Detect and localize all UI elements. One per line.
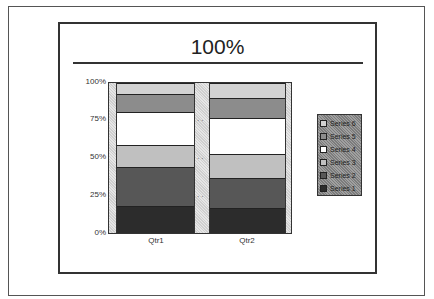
x-label-qtr2: Qtr2 <box>227 236 267 245</box>
title-underline <box>73 62 363 64</box>
legend-label: Series 6 <box>330 120 356 127</box>
legend-label: Series 1 <box>330 185 356 192</box>
legend-swatch <box>320 185 327 192</box>
chart-legend: Series 6 Series 5 Series 4 Series 3 Seri… <box>317 114 362 196</box>
legend-swatch <box>320 120 327 127</box>
legend-label: Series 2 <box>330 172 356 179</box>
bar-segment-series-3 <box>210 154 285 178</box>
legend-item-series-3: Series 3 <box>320 157 356 168</box>
gridline-marker-50: ·· <box>197 156 206 162</box>
bar-qtr1 <box>116 83 195 233</box>
bar-segment-series-2 <box>210 178 285 208</box>
gridline-marker-25: ·· <box>197 194 206 200</box>
legend-label: Series 4 <box>330 146 356 153</box>
bar-segment-series-2 <box>117 167 194 206</box>
legend-label: Series 3 <box>330 159 356 166</box>
bar-segment-series-6 <box>117 83 194 94</box>
chart-title: 100% <box>58 35 377 59</box>
legend-item-series-2: Series 2 <box>320 170 356 181</box>
legend-item-series-4: Series 4 <box>320 144 356 155</box>
legend-swatch <box>320 159 327 166</box>
bar-segment-series-1 <box>210 208 285 234</box>
x-label-qtr1: Qtr1 <box>136 236 176 245</box>
y-tick-75: 75% <box>76 114 106 123</box>
legend-swatch <box>320 133 327 140</box>
y-tick-0: 0% <box>76 228 106 237</box>
bar-segment-series-6 <box>210 83 285 98</box>
gridline-marker-75: ·· <box>197 118 206 124</box>
legend-item-series-6: Series 6 <box>320 118 356 129</box>
legend-item-series-5: Series 5 <box>320 131 356 142</box>
plot-area: ·· ·· ·· <box>108 82 292 234</box>
y-tick-100: 100% <box>76 77 106 86</box>
legend-label: Series 5 <box>330 133 356 140</box>
bar-qtr2 <box>209 83 286 233</box>
legend-swatch <box>320 172 327 179</box>
y-tick-50: 50% <box>76 152 106 161</box>
legend-item-series-1: Series 1 <box>320 183 356 194</box>
bar-segment-series-1 <box>117 206 194 233</box>
bar-segment-series-3 <box>117 145 194 168</box>
legend-swatch <box>320 146 327 153</box>
y-tick-25: 25% <box>76 190 106 199</box>
bar-segment-series-4 <box>117 112 194 145</box>
bar-segment-series-4 <box>210 118 285 154</box>
bar-segment-series-5 <box>117 94 194 112</box>
bar-segment-series-5 <box>210 98 285 118</box>
